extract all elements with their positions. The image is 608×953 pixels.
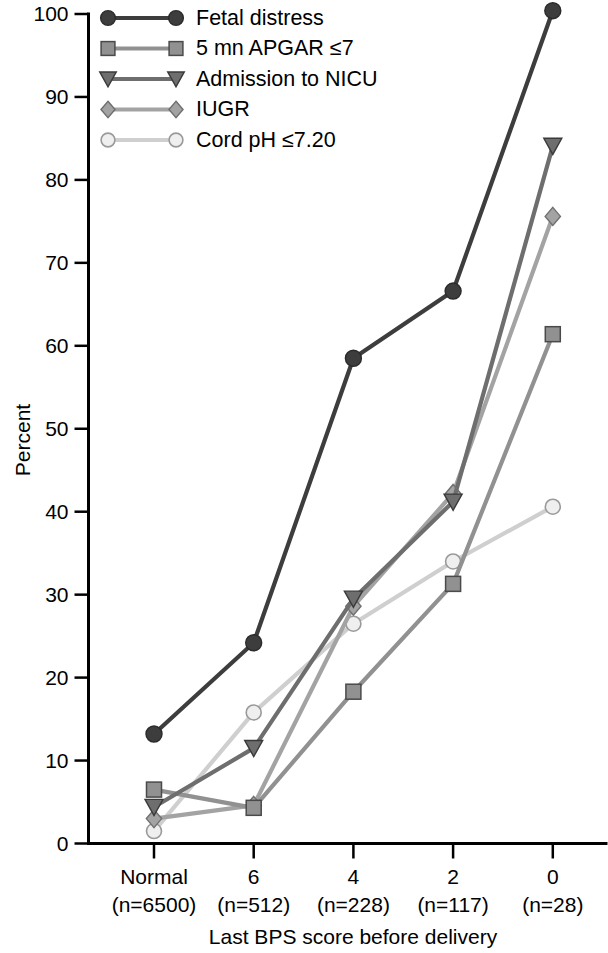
legend-item: Admission to NICU xyxy=(100,67,378,91)
x-category-count: (n=28) xyxy=(522,893,583,916)
data-point-marker xyxy=(544,138,562,154)
legend-marker xyxy=(101,42,115,56)
data-point-marker xyxy=(545,207,560,225)
legend-label: IUGR xyxy=(196,97,250,121)
x-axis-tick-labels: Normal(n=6500)6(n=512)4(n=228)2(n=117)0(… xyxy=(112,865,584,916)
data-point-marker xyxy=(147,782,162,797)
line-chart: 0102030405060708090100 Normal(n=6500)6(n… xyxy=(0,0,608,953)
x-category-label: 2 xyxy=(447,865,459,888)
x-category-count: (n=117) xyxy=(417,893,488,916)
data-point-marker xyxy=(545,499,560,514)
data-point-marker xyxy=(246,635,262,651)
y-tick-label-30: 30 xyxy=(45,583,68,606)
chart-container: 0102030405060708090100 Normal(n=6500)6(n… xyxy=(0,0,608,953)
y-tick-label-80: 80 xyxy=(45,168,68,191)
y-tick-label-20: 20 xyxy=(45,666,68,689)
x-axis-title: Last BPS score before delivery xyxy=(209,925,498,948)
data-point-marker xyxy=(146,726,162,742)
y-tick-label-60: 60 xyxy=(45,334,68,357)
x-category-label: Normal xyxy=(120,865,188,888)
legend-marker xyxy=(169,101,183,118)
data-point-marker xyxy=(545,3,561,19)
legend-item: Cord pH ≤7.20 xyxy=(101,128,336,152)
y-tick-label-40: 40 xyxy=(45,500,68,523)
legend-marker xyxy=(169,42,183,56)
data-point-marker xyxy=(345,350,361,366)
y-axis-tick-labels: 0102030405060708090100 xyxy=(33,2,68,855)
legend-item: 5 mn APGAR ≤7 xyxy=(101,36,353,60)
x-category-label: 0 xyxy=(547,865,559,888)
series-line xyxy=(154,146,553,807)
series-line xyxy=(154,507,553,831)
series-group xyxy=(147,499,561,838)
y-tick-label-50: 50 xyxy=(45,417,68,440)
legend-label: 5 mn APGAR ≤7 xyxy=(196,36,354,60)
y-axis-ticks xyxy=(75,14,89,844)
x-category-count: (n=512) xyxy=(217,893,290,916)
data-point-marker xyxy=(145,799,163,815)
series-group xyxy=(146,207,560,827)
legend-marker xyxy=(101,101,115,118)
y-tick-label-90: 90 xyxy=(45,85,68,108)
data-point-marker xyxy=(445,283,461,299)
x-category-label: 4 xyxy=(348,865,360,888)
data-point-marker xyxy=(545,327,560,342)
legend-label: Admission to NICU xyxy=(196,67,378,91)
legend-item: Fetal distress xyxy=(101,6,324,30)
x-category-count: (n=228) xyxy=(317,893,390,916)
y-axis-title: Percent xyxy=(11,404,34,477)
data-point-marker xyxy=(446,576,461,591)
legend-marker xyxy=(101,133,115,147)
y-tick-label-10: 10 xyxy=(45,749,68,772)
x-axis-ticks xyxy=(154,844,553,859)
legend-marker xyxy=(169,133,183,147)
y-tick-label-100: 100 xyxy=(33,2,68,25)
series-line xyxy=(154,216,553,818)
legend-marker xyxy=(101,11,116,26)
data-point-marker xyxy=(246,705,261,720)
chart-legend: Fetal distress5 mn APGAR ≤7Admission to … xyxy=(100,6,378,152)
legend-marker xyxy=(169,11,184,26)
series-group xyxy=(145,138,562,815)
x-category-label: 6 xyxy=(248,865,260,888)
y-tick-label-70: 70 xyxy=(45,251,68,274)
y-tick-label-0: 0 xyxy=(57,832,69,855)
series-group xyxy=(147,327,561,816)
data-point-marker xyxy=(346,684,361,699)
legend-label: Fetal distress xyxy=(196,6,324,30)
legend-label: Cord pH ≤7.20 xyxy=(196,128,336,152)
x-category-count: (n=6500) xyxy=(112,893,197,916)
data-point-marker xyxy=(246,800,261,815)
series-line xyxy=(154,334,553,808)
legend-item: IUGR xyxy=(101,97,250,121)
